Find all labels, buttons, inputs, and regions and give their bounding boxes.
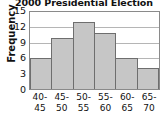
x-axis-tick-label: 55-60 [94, 92, 116, 114]
x-axis-tick-label: 60-65 [116, 92, 138, 114]
y-axis-tick-label: 15 [10, 6, 26, 16]
x-axis-tick-label: 65-70 [138, 92, 160, 114]
bar [94, 33, 116, 89]
y-axis-tick-label: 9 [10, 38, 26, 48]
x-axis-tick-label: 45-50 [51, 92, 73, 114]
y-axis-tick-label: 3 [10, 69, 26, 79]
y-axis-tick-labels: 15129630 [10, 11, 26, 90]
y-axis-tick-label: 0 [10, 85, 26, 95]
bar [137, 68, 159, 89]
plot-area [29, 11, 160, 90]
x-axis-tick-label: 40-45 [29, 92, 51, 114]
bar [115, 58, 137, 89]
x-axis-tick-label: 50-55 [73, 92, 95, 114]
bar [51, 38, 73, 89]
y-axis-tick-label: 6 [10, 53, 26, 63]
y-axis-tick-label: 12 [10, 22, 26, 32]
bar [30, 58, 52, 89]
bar-series [30, 12, 159, 89]
bar [73, 22, 95, 89]
histogram-chart: 2000 Presidential Election Frequency 151… [0, 0, 168, 120]
x-axis-tick-labels: 40-4545-5050-5555-6060-6565-70 [29, 92, 160, 114]
